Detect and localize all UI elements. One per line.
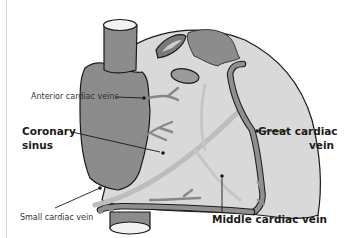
label-great-cardiac-vein-line2: vein (309, 139, 334, 151)
svc-opening (104, 20, 137, 31)
label-small-cardiac-vein: Small cardiac vein (20, 213, 93, 222)
ivc-opening (110, 222, 150, 234)
label-great-cardiac-vein-line1: Great cardiac (258, 125, 338, 137)
right-atrium (80, 63, 150, 190)
label-coronary-sinus-line2: sinus (22, 139, 53, 151)
label-coronary-sinus-line1: Coronary (22, 125, 76, 137)
label-anterior-cardiac-veins: Anterior cardiac veins (31, 92, 119, 101)
heart-diagram (0, 0, 344, 238)
label-middle-cardiac-vein: Middle cardiac vein (212, 213, 327, 225)
superior-vena-cava (104, 25, 137, 73)
